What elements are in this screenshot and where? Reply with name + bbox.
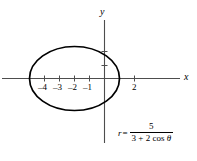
equation-denominator: 3 + 2 cos θ: [130, 133, 174, 143]
equation-fraction: 5 3 + 2 cos θ: [130, 122, 174, 143]
equation-equals-sign: =: [123, 128, 128, 138]
x-tick-label-minus4: –4: [38, 83, 47, 92]
denominator-theta-variable: θ: [167, 133, 171, 143]
x-tick-label-minus3: –3: [53, 83, 62, 92]
polar-conic-figure: –4 –3 –2 –1 2 y x r = 5 3 + 2 cos θ: [0, 0, 197, 161]
y-axis-label: y: [100, 7, 104, 17]
x-axis-label: x: [184, 72, 188, 82]
equation-left-side: r: [118, 128, 122, 138]
equation-numerator: 5: [146, 122, 157, 132]
x-tick-label-minus2: –2: [68, 83, 77, 92]
equation-annotation: r = 5 3 + 2 cos θ: [118, 122, 173, 143]
denominator-cos-function: cos: [152, 133, 164, 143]
x-tick-label-2: 2: [132, 83, 137, 92]
x-tick-label-minus1: –1: [83, 83, 92, 92]
